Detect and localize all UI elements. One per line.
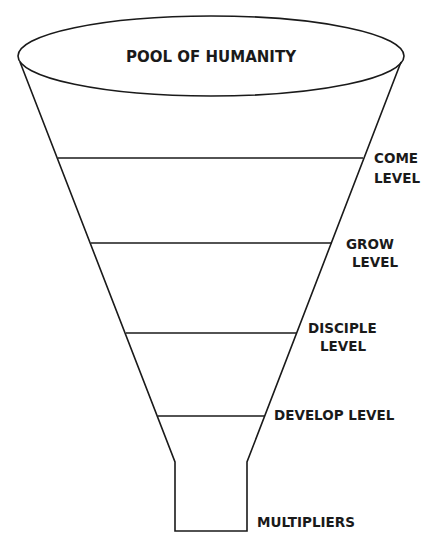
develop-level-label: DEVELOP LEVEL — [274, 407, 395, 423]
pool-of-humanity-label: POOL OF HUMANITY — [126, 48, 297, 66]
funnel-diagram: POOL OF HUMANITY COME LEVEL GROW LEVEL D… — [0, 0, 440, 554]
grow-level-label-line2: LEVEL — [352, 254, 398, 270]
come-level-label: COME LEVEL — [374, 150, 420, 186]
funnel-outline — [20, 62, 401, 531]
come-level-label-line1: COME — [374, 150, 418, 166]
disciple-level-label: DISCIPLE LEVEL — [308, 320, 377, 354]
disciple-level-label-line2: LEVEL — [320, 338, 366, 354]
come-level-label-line2: LEVEL — [374, 170, 420, 186]
multipliers-label: MULTIPLIERS — [257, 514, 355, 530]
disciple-level-label-line1: DISCIPLE — [308, 320, 377, 336]
grow-level-label: GROW LEVEL — [346, 236, 398, 270]
grow-level-label-line1: GROW — [346, 236, 394, 252]
